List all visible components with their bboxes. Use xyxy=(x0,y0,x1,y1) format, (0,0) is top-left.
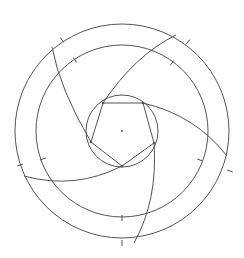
spiral-arc-5 xyxy=(24,166,122,181)
center-dot xyxy=(121,130,123,132)
tick-mark-3 xyxy=(186,40,190,45)
vertex-dot-1 xyxy=(102,102,105,105)
vertex-dot-3 xyxy=(153,142,156,145)
vertex-dot-4 xyxy=(121,165,124,168)
vertex-dot-2 xyxy=(142,102,145,105)
vertex-dot-5 xyxy=(90,141,93,144)
pentagon xyxy=(91,103,154,166)
tick-mark-7 xyxy=(227,170,233,172)
spiral-arc-4 xyxy=(134,143,155,243)
pentagon-spiral-diagram xyxy=(0,0,244,258)
tick-mark-8 xyxy=(197,159,203,161)
spiral-arc-3 xyxy=(143,103,227,156)
tick-mark-1 xyxy=(60,37,63,42)
